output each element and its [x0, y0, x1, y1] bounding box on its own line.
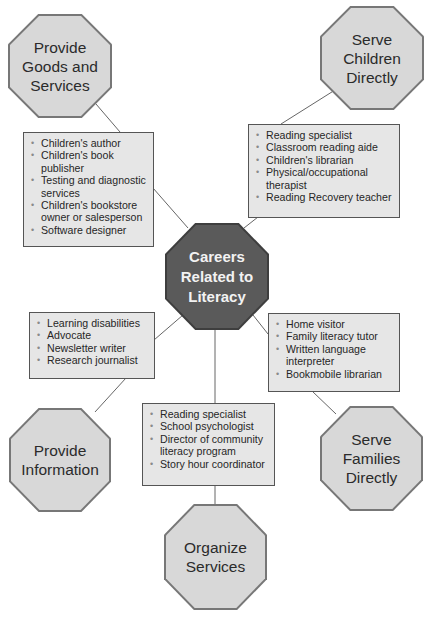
bullet-icon: • [37, 342, 40, 354]
list-item: •Bookmobile librarian [276, 368, 395, 380]
list-item: •Software designer [31, 224, 149, 236]
list-item: •Director of community literacy program [150, 433, 270, 458]
goods-items-box: •Children's author •Children's book publ… [23, 132, 154, 247]
bullet-icon: • [31, 137, 34, 149]
bullet-icon: • [37, 329, 40, 341]
bullet-icon: • [276, 343, 279, 355]
bullet-icon: • [31, 199, 34, 211]
bullet-icon: • [150, 433, 153, 445]
list-item: •Physical/occupational therapist [256, 166, 395, 191]
bullet-icon: • [150, 458, 153, 470]
organize-items-box: •Reading specialist •School psychologist… [142, 403, 275, 486]
bullet-icon: • [256, 129, 259, 141]
list-item: •School psychologist [150, 420, 270, 432]
bullet-icon: • [276, 330, 279, 342]
list-item: •Newsletter writer [37, 342, 150, 354]
bullet-icon: • [31, 149, 34, 161]
bullet-icon: • [276, 318, 279, 330]
bullet-icon: • [37, 317, 40, 329]
list-item: •Children's author [31, 137, 149, 149]
category-goods-label: Provide Goods and Services [22, 38, 98, 95]
list-item: •Reading specialist [150, 408, 270, 420]
bullet-icon: • [256, 166, 259, 178]
category-organize-label: Organize Services [184, 538, 247, 576]
list-item: •Children's bookstore owner or salespers… [31, 199, 149, 224]
category-children-label: Serve Children Directly [343, 30, 401, 87]
list-item: •Children's book publisher [31, 149, 149, 174]
center-octagon: Careers Related to Literacy [165, 223, 269, 330]
list-item: •Reading Recovery teacher [256, 191, 395, 203]
bullet-icon: • [150, 420, 153, 432]
category-families-label: Serve Families Directly [343, 430, 401, 487]
bullet-icon: • [31, 174, 34, 186]
category-organize-octagon: Organize Services [164, 504, 267, 610]
list-item: •Children's librarian [256, 154, 395, 166]
list-item: •Learning disabilities [37, 317, 150, 329]
center-label: Careers Related to Literacy [181, 247, 254, 307]
list-item: •Testing and diagnostic services [31, 174, 149, 199]
list-item: •Reading specialist [256, 129, 395, 141]
families-items-box: •Home visitor •Family literacy tutor •Wr… [268, 313, 400, 392]
bullet-icon: • [150, 408, 153, 420]
category-families-octagon: Serve Families Directly [320, 406, 423, 511]
category-goods-octagon: Provide Goods and Services [8, 14, 112, 118]
category-information-octagon: Provide Information [9, 408, 111, 512]
information-items-box: •Learning disabilities •Advocate •Newsle… [29, 312, 155, 379]
list-item: •Classroom reading aide [256, 141, 395, 153]
list-item: •Written language interpreter [276, 343, 395, 368]
children-items-box: •Reading specialist •Classroom reading a… [248, 124, 400, 218]
bullet-icon: • [256, 141, 259, 153]
list-item: •Advocate [37, 329, 150, 341]
bullet-icon: • [276, 368, 279, 380]
bullet-icon: • [256, 191, 259, 203]
bullet-icon: • [37, 354, 40, 366]
list-item: •Research journalist [37, 354, 150, 366]
list-item: •Story hour coordinator [150, 458, 270, 470]
connector-goods [153, 188, 188, 228]
category-information-label: Provide Information [21, 441, 99, 479]
bullet-icon: • [31, 224, 34, 236]
list-item: •Home visitor [276, 318, 395, 330]
category-children-octagon: Serve Children Directly [320, 6, 424, 110]
bullet-icon: • [256, 154, 259, 166]
list-item: •Family literacy tutor [276, 330, 395, 342]
